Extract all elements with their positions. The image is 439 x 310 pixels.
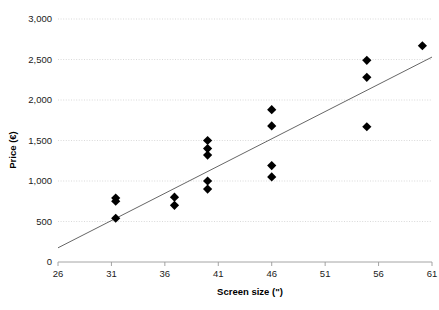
y-axis-title: Price (€) <box>7 131 18 169</box>
x-tick-label: 31 <box>106 268 117 279</box>
y-tick-label: 3,000 <box>28 13 52 24</box>
y-tick-label: 500 <box>36 216 52 227</box>
y-tick-label: 2,500 <box>28 54 52 65</box>
x-axis-title: Screen size (") <box>217 286 283 297</box>
y-tick-label: 0 <box>47 256 52 267</box>
chart-canvas: 05001,0001,5002,0002,5003,000 2631364146… <box>0 0 439 310</box>
x-tick-label: 61 <box>427 268 438 279</box>
x-tick-label: 36 <box>160 268 171 279</box>
scatter-chart: 05001,0001,5002,0002,5003,000 2631364146… <box>0 0 439 310</box>
x-tick-label: 41 <box>213 268 224 279</box>
x-tick-label: 56 <box>373 268 384 279</box>
x-tick-label: 26 <box>53 268 64 279</box>
x-tick-label: 51 <box>320 268 331 279</box>
x-tick-label: 46 <box>266 268 277 279</box>
y-tick-label: 1,500 <box>28 135 52 146</box>
y-tick-label: 2,000 <box>28 94 52 105</box>
chart-background <box>0 0 439 310</box>
y-tick-label: 1,000 <box>28 175 52 186</box>
